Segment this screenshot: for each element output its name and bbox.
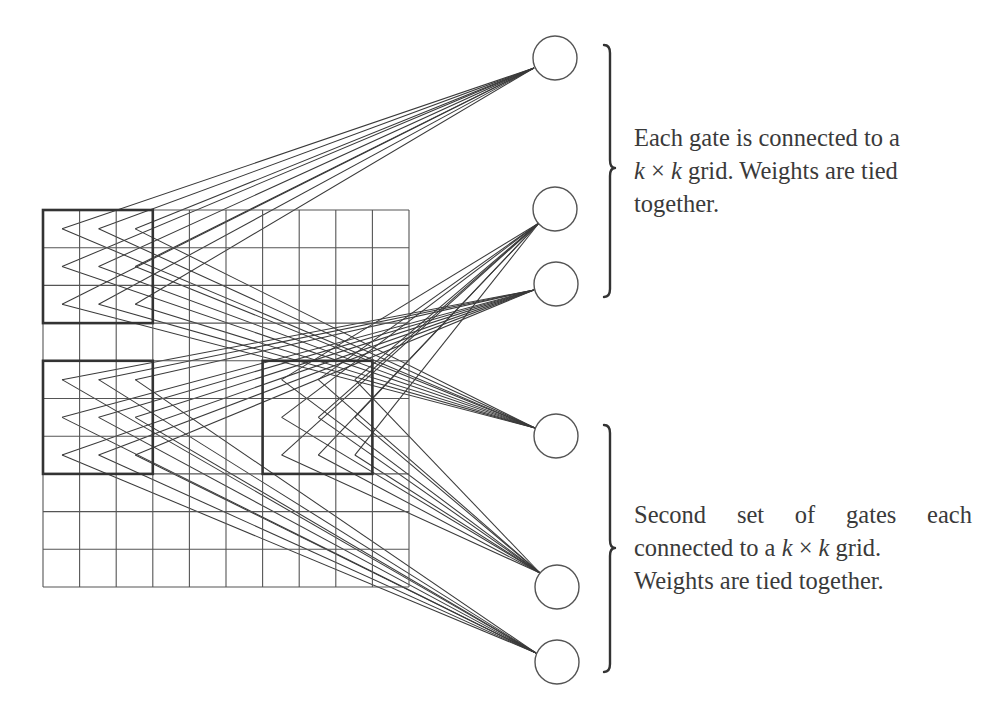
middle-right-field-box bbox=[263, 361, 373, 474]
gate-1-node bbox=[533, 36, 577, 80]
connection-line bbox=[282, 380, 540, 573]
kernel-symbol: k bbox=[671, 157, 682, 184]
annotation-word: set bbox=[737, 498, 764, 531]
times-symbol: × bbox=[793, 534, 819, 561]
connection-line bbox=[99, 417, 536, 653]
connection-line bbox=[62, 68, 534, 229]
times-symbol: × bbox=[645, 157, 671, 184]
kernel-symbol: k bbox=[819, 534, 830, 561]
connection-line bbox=[135, 290, 534, 455]
annotation-text: connected to a bbox=[634, 534, 782, 561]
gate-2-node bbox=[533, 187, 577, 231]
connection-line bbox=[355, 380, 540, 573]
annotation-word: each bbox=[927, 498, 972, 531]
kernel-symbol: k bbox=[782, 534, 793, 561]
annotation-line: Secondsetofgateseach bbox=[634, 498, 972, 531]
connection-line bbox=[99, 68, 534, 229]
annotation-line: connected to a k × k grid. bbox=[634, 531, 972, 564]
connection-line bbox=[99, 267, 535, 428]
connection-line bbox=[99, 290, 534, 455]
connection-line bbox=[99, 68, 534, 267]
connection-line bbox=[62, 68, 534, 267]
gate-5-node bbox=[535, 565, 579, 609]
annotation-text: grid. Weights are tied bbox=[682, 157, 898, 184]
connection-line bbox=[282, 223, 539, 417]
input-grid bbox=[43, 210, 409, 587]
gate-connectivity-diagram bbox=[0, 0, 987, 725]
group-braces bbox=[604, 45, 615, 672]
annotation-word: gates bbox=[846, 498, 896, 531]
gate-4-node bbox=[534, 414, 578, 458]
connection-line bbox=[99, 380, 536, 653]
connection-line bbox=[355, 223, 539, 380]
annotation-line: Weights are tied together. bbox=[634, 564, 972, 597]
annotation-line: together. bbox=[634, 187, 974, 220]
annotation-word: Second bbox=[634, 498, 706, 531]
connection-line bbox=[99, 455, 536, 653]
gate-3-node bbox=[534, 262, 578, 306]
annotation-text: grid. bbox=[829, 534, 881, 561]
gate-6-node bbox=[535, 640, 579, 684]
kernel-symbol: k bbox=[634, 157, 645, 184]
connection-line bbox=[355, 455, 540, 573]
first-gate-set-annotation: Each gate is connected to a k × k grid. … bbox=[634, 121, 974, 220]
brace-1 bbox=[604, 45, 615, 297]
second-gate-set-annotation: Secondsetofgateseach connected to a k × … bbox=[634, 498, 972, 597]
connection-line bbox=[135, 68, 534, 229]
annotation-line: k × k grid. Weights are tied bbox=[634, 154, 974, 187]
gate-nodes bbox=[533, 36, 579, 684]
annotation-word: of bbox=[795, 498, 815, 531]
annotation-line: Each gate is connected to a bbox=[634, 121, 974, 154]
connection-line bbox=[282, 223, 539, 455]
connection-line bbox=[99, 68, 534, 304]
brace-2 bbox=[604, 425, 615, 672]
